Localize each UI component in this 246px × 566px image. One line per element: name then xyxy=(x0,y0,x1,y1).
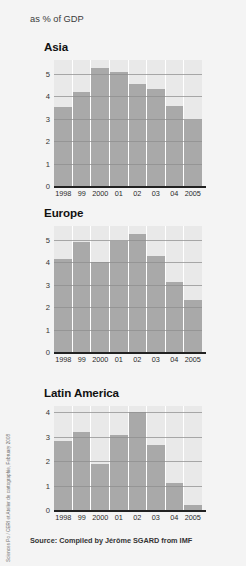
bar-cell xyxy=(166,226,185,352)
y-axis-tick-latin-america-4: 4 xyxy=(36,408,50,417)
bar xyxy=(166,483,184,510)
credit-strip: Sciences Po / CERI et Atelier de cartogr… xyxy=(0,0,16,566)
x-axis-tick-label: 2000 xyxy=(91,513,110,522)
bar-cell xyxy=(184,226,202,352)
plot-area-asia: 123450 xyxy=(54,60,202,186)
y-axis-tick-europe-5: 5 xyxy=(36,235,50,244)
gridline-asia-4 xyxy=(54,96,202,97)
y-axis-tick-asia-1: 1 xyxy=(36,159,50,168)
y-axis-tick-latin-america-1: 1 xyxy=(36,481,50,490)
y-axis-tick-latin-america-3: 3 xyxy=(36,432,50,441)
x-axis-line-latin-america xyxy=(54,510,206,512)
bar-cell xyxy=(166,406,185,510)
plot-area-europe: 123450 xyxy=(54,226,202,352)
bar-cell xyxy=(73,226,92,352)
bar-cell xyxy=(91,226,110,352)
x-axis-tick-label: 04 xyxy=(165,189,184,198)
bar xyxy=(184,300,202,352)
x-axis-tick-label: 2000 xyxy=(91,355,110,364)
gridline-europe-1 xyxy=(54,330,202,331)
x-axis-labels-latin-america: 1998992000010203042005 xyxy=(54,513,202,522)
bar-cell xyxy=(110,60,129,186)
chart-title-asia: Asia xyxy=(44,40,68,53)
y-axis-tick-asia-5: 5 xyxy=(36,69,50,78)
bar-cell xyxy=(129,226,148,352)
y-axis-tick-europe-0: 0 xyxy=(36,348,50,357)
bar xyxy=(147,445,165,510)
x-axis-line-europe xyxy=(54,352,206,354)
credit-text: Sciences Po / CERI et Atelier de cartogr… xyxy=(6,434,11,562)
y-axis-tick-europe-4: 4 xyxy=(36,258,50,267)
x-axis-tick-label: 99 xyxy=(73,355,92,364)
bar xyxy=(166,282,184,352)
bar xyxy=(91,464,109,510)
bar-cell xyxy=(147,406,166,510)
bar-cell xyxy=(54,60,73,186)
bar-cell xyxy=(54,406,73,510)
bar-cell xyxy=(91,406,110,510)
x-axis-tick-label: 2005 xyxy=(184,355,203,364)
x-axis-tick-label: 1998 xyxy=(54,355,73,364)
bar xyxy=(73,92,91,187)
x-axis-tick-label: 99 xyxy=(73,513,92,522)
y-axis-tick-asia-3: 3 xyxy=(36,114,50,123)
x-axis-labels-europe: 1998992000010203042005 xyxy=(54,355,202,364)
bar xyxy=(129,84,147,186)
source-note: Source: Compiled by Jérôme SGARD from IM… xyxy=(30,536,192,545)
gridline-latin-america-3 xyxy=(54,437,202,438)
bar xyxy=(54,259,72,352)
x-axis-tick-label: 01 xyxy=(110,513,129,522)
bar-cell xyxy=(184,406,202,510)
gridline-asia-3 xyxy=(54,119,202,120)
bar xyxy=(147,89,165,186)
y-axis-tick-asia-2: 2 xyxy=(36,137,50,146)
plot-area-latin-america: 12340 xyxy=(54,406,202,510)
gridline-latin-america-4 xyxy=(54,412,202,413)
bar-cell xyxy=(73,60,92,186)
y-axis-tick-latin-america-0: 0 xyxy=(36,506,50,515)
x-axis-tick-label: 2005 xyxy=(184,189,203,198)
gridline-europe-2 xyxy=(54,307,202,308)
x-axis-tick-label: 01 xyxy=(110,355,129,364)
bar xyxy=(110,241,128,352)
x-axis-tick-label: 1998 xyxy=(54,513,73,522)
bar xyxy=(54,441,72,510)
y-axis-tick-europe-1: 1 xyxy=(36,325,50,334)
bar xyxy=(129,234,147,352)
bar-cell xyxy=(54,226,73,352)
gridline-latin-america-1 xyxy=(54,486,202,487)
x-axis-tick-label: 02 xyxy=(128,513,147,522)
y-axis-tick-latin-america-2: 2 xyxy=(36,457,50,466)
x-axis-tick-label: 2000 xyxy=(91,189,110,198)
bar-cell xyxy=(91,60,110,186)
bar-cell xyxy=(147,226,166,352)
x-axis-labels-asia: 1998992000010203042005 xyxy=(54,189,202,198)
gridline-europe-3 xyxy=(54,285,202,286)
bar-series-europe xyxy=(54,226,202,352)
x-axis-tick-label: 04 xyxy=(165,355,184,364)
bar-cell xyxy=(147,60,166,186)
bar xyxy=(147,256,165,352)
bar-cell xyxy=(73,406,92,510)
y-axis-tick-europe-2: 2 xyxy=(36,303,50,312)
y-axis-tick-asia-0: 0 xyxy=(36,182,50,191)
bar xyxy=(91,68,109,186)
x-axis-tick-label: 99 xyxy=(73,189,92,198)
bar-cell xyxy=(110,406,129,510)
bar-cell xyxy=(166,60,185,186)
bar-cell xyxy=(110,226,129,352)
bar xyxy=(73,432,91,510)
gridline-europe-4 xyxy=(54,262,202,263)
x-axis-tick-label: 01 xyxy=(110,189,129,198)
x-axis-tick-label: 03 xyxy=(147,355,166,364)
y-axis-tick-asia-4: 4 xyxy=(36,92,50,101)
x-axis-tick-label: 03 xyxy=(147,513,166,522)
x-axis-tick-label: 1998 xyxy=(54,189,73,198)
x-axis-tick-label: 02 xyxy=(128,355,147,364)
x-axis-tick-label: 2005 xyxy=(184,513,203,522)
bar-series-latin-america xyxy=(54,406,202,510)
gridline-asia-5 xyxy=(54,74,202,75)
chart-title-europe: Europe xyxy=(44,206,83,219)
bar-cell xyxy=(129,406,148,510)
gridline-asia-2 xyxy=(54,141,202,142)
